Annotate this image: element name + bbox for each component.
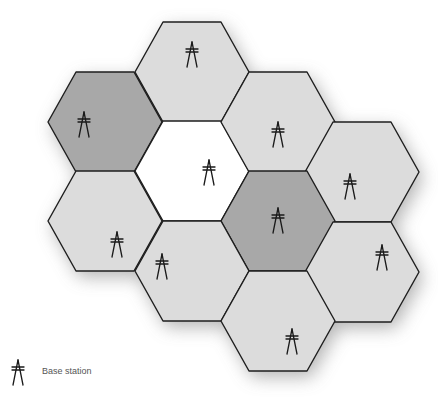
antenna-tower-icon xyxy=(12,360,24,385)
legend-label: Base station xyxy=(42,366,92,376)
cellular-hex-diagram xyxy=(0,0,438,401)
legend-base-station-icon xyxy=(12,360,24,385)
hex-cells xyxy=(48,22,419,371)
